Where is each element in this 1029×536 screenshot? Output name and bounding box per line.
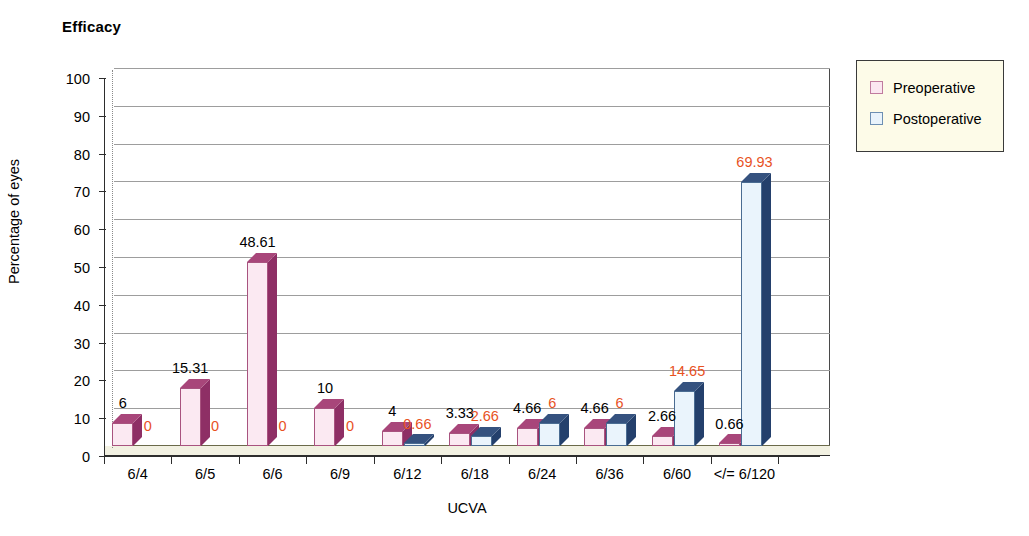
- bar-side-3d: [762, 173, 771, 446]
- data-label-post: 2.66: [471, 408, 499, 424]
- data-label-pre: 15.31: [172, 360, 208, 376]
- legend-item-postoperative[interactable]: Postoperative: [870, 103, 1003, 134]
- bar-face: [112, 423, 133, 446]
- bar-post[interactable]: [404, 443, 425, 446]
- x-axis-tick: [171, 456, 172, 464]
- bar-pre[interactable]: [314, 408, 335, 446]
- bar-face: [247, 262, 268, 446]
- bar-post[interactable]: [606, 423, 627, 446]
- bar-pre[interactable]: [449, 433, 470, 446]
- x-axis-tick-label: 6/9: [330, 466, 350, 482]
- bar-pre[interactable]: [719, 443, 740, 446]
- data-label-pre: 48.61: [239, 234, 275, 250]
- bar-face: [517, 428, 538, 446]
- legend-swatch-preoperative-icon: [870, 81, 883, 94]
- data-label-post: 14.65: [669, 363, 705, 379]
- bar-side-3d: [201, 379, 210, 446]
- y-axis-tick-label: 80: [74, 147, 90, 163]
- gridline: [114, 106, 830, 107]
- data-label-post: 0.66: [403, 416, 431, 432]
- x-axis-tick: [374, 456, 375, 464]
- bar-side-3d: [268, 253, 277, 446]
- y-axis-tick: 10: [99, 418, 106, 419]
- bar-face: [674, 391, 695, 446]
- bar-face: [741, 182, 762, 446]
- y-axis-tick-label: 50: [74, 260, 90, 276]
- data-label-pre: 3.33: [446, 405, 474, 421]
- x-axis-line: [104, 456, 820, 457]
- data-label-pre: 2.66: [648, 408, 676, 424]
- legend-label-preoperative: Preoperative: [893, 80, 975, 96]
- bar-pre[interactable]: [180, 388, 201, 446]
- bar-face: [404, 443, 425, 446]
- data-label-pre: 6: [119, 395, 127, 411]
- data-label-pre: 4: [388, 403, 396, 419]
- y-axis-tick: 100: [99, 78, 106, 79]
- bar-post[interactable]: [539, 423, 560, 446]
- plot-area: 0102030405060708090100 6/46/56/66/96/126…: [104, 68, 830, 456]
- bar-post[interactable]: [674, 391, 695, 446]
- legend-swatch-postoperative-icon: [870, 112, 883, 125]
- bar-pre[interactable]: [382, 431, 403, 446]
- y-axis-tick-label: 20: [74, 373, 90, 389]
- bar-side-3d: [695, 382, 704, 446]
- bar-face: [449, 433, 470, 446]
- gridline: [114, 144, 830, 145]
- chart-legend: Preoperative Postoperative: [856, 60, 1004, 152]
- y-axis-tick-label: 70: [74, 184, 90, 200]
- gridline: [114, 257, 830, 258]
- y-axis-tick: 30: [99, 343, 106, 344]
- x-axis-tick: [778, 456, 779, 464]
- chart-title: Efficacy: [62, 18, 121, 35]
- x-axis-tick-label: 6/5: [195, 466, 215, 482]
- y-axis-tick-label: 40: [74, 298, 90, 314]
- data-label-post: 69.93: [736, 154, 772, 170]
- y-axis-tick: 60: [99, 229, 106, 230]
- y-axis-tick-label: 90: [74, 109, 90, 125]
- x-axis-title: UCVA: [104, 500, 830, 516]
- bar-face: [180, 388, 201, 446]
- bar-post[interactable]: [741, 182, 762, 446]
- data-label-post: 6: [616, 395, 624, 411]
- data-label-pre: 0.66: [715, 416, 743, 432]
- bar-pre[interactable]: [584, 428, 605, 446]
- plot-floor: [104, 446, 830, 456]
- data-label-pre: 4.66: [513, 400, 541, 416]
- y-axis-depth-line: [112, 70, 113, 448]
- y-axis-tick-label: 30: [74, 336, 90, 352]
- legend-item-preoperative[interactable]: Preoperative: [870, 72, 1003, 103]
- y-axis-tick: 70: [99, 191, 106, 192]
- x-axis-tick-label: 6/36: [596, 466, 624, 482]
- bar-face: [652, 436, 673, 446]
- x-axis-tick: [104, 456, 105, 464]
- data-label-post: 0: [211, 418, 219, 434]
- bar-post[interactable]: [471, 436, 492, 446]
- bar-pre[interactable]: [247, 262, 268, 446]
- y-axis-line: 0102030405060708090100: [104, 78, 105, 456]
- x-axis-tick: [711, 456, 712, 464]
- bar-pre[interactable]: [112, 423, 133, 446]
- x-axis-tick: [239, 456, 240, 464]
- bar-pre[interactable]: [652, 436, 673, 446]
- data-label-pre: 10: [317, 380, 333, 396]
- x-axis-tick: [576, 456, 577, 464]
- y-axis-title: Percentage of eyes: [6, 159, 22, 284]
- x-axis-tick-label: </= 6/120: [714, 466, 775, 482]
- gridline: [114, 295, 830, 296]
- data-label-post: 6: [548, 395, 556, 411]
- x-axis-tick-label: 6/12: [393, 466, 421, 482]
- bar-pre[interactable]: [517, 428, 538, 446]
- y-axis-tick: 80: [99, 154, 106, 155]
- x-axis-tick-label: 6/60: [663, 466, 691, 482]
- x-axis-tick-label: 6/4: [128, 466, 148, 482]
- x-axis-tick-label: 6/18: [461, 466, 489, 482]
- data-label-post: 0: [144, 418, 152, 434]
- data-label-post: 0: [346, 418, 354, 434]
- gridline: [114, 333, 830, 334]
- gridline: [114, 370, 830, 371]
- legend-label-postoperative: Postoperative: [893, 111, 982, 127]
- y-axis-tick-label: 0: [82, 449, 90, 465]
- bar-face: [382, 431, 403, 446]
- y-axis-tick-label: 10: [74, 411, 90, 427]
- y-axis-tick: 20: [99, 380, 106, 381]
